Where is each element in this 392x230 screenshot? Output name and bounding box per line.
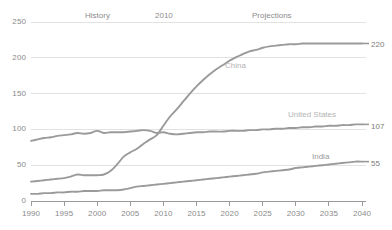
china-end-value: 220 xyxy=(371,41,384,49)
y-axis-tick-50: 50 xyxy=(0,161,26,169)
x-axis-tick-2040: 2040 xyxy=(347,210,377,218)
population-chart: 250200150100500 199019952000200520102015… xyxy=(0,0,392,230)
x-axis-tick-2005: 2005 xyxy=(115,210,145,218)
y-axis-tick-0: 0 xyxy=(0,197,26,205)
x-axis-tick-2025: 2025 xyxy=(248,210,278,218)
y-axis-tick-250: 250 xyxy=(0,18,26,26)
axis-marks xyxy=(31,202,366,206)
china-series-label: China xyxy=(225,62,246,70)
x-axis-tick-2015: 2015 xyxy=(182,210,212,218)
x-axis-tick-2000: 2000 xyxy=(82,210,112,218)
x-axis-tick-1990: 1990 xyxy=(16,210,46,218)
india-series-label: India xyxy=(312,153,329,161)
end-value-ticks xyxy=(362,43,369,161)
x-axis-tick-2030: 2030 xyxy=(281,210,311,218)
x-axis-tick-1995: 1995 xyxy=(49,210,79,218)
united-states-series-label: United States xyxy=(288,111,336,119)
united-states-end-value: 107 xyxy=(371,123,384,131)
india-end-value: 55 xyxy=(371,160,380,168)
x-axis-tick-2035: 2035 xyxy=(314,210,344,218)
projections-label: Projections xyxy=(252,12,292,20)
history-label: History xyxy=(85,12,110,20)
divider-year-label: 2010 xyxy=(155,12,173,20)
y-axis-tick-150: 150 xyxy=(0,90,26,98)
x-axis-tick-2020: 2020 xyxy=(215,210,245,218)
y-axis-tick-200: 200 xyxy=(0,54,26,62)
x-axis-tick-2010: 2010 xyxy=(148,210,178,218)
y-axis-tick-100: 100 xyxy=(0,125,26,133)
